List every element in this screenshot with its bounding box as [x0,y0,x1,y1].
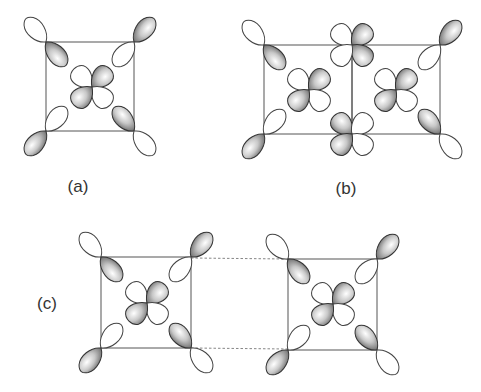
panel-label: (c) [37,294,57,313]
center-d-orbital [67,62,117,112]
panel-a: (a) [20,13,161,196]
dashed-bond [191,348,288,349]
center-d-orbital [308,279,358,329]
panel-label: (a) [68,177,89,196]
panel-b: (b) [238,16,467,198]
panel-c: (c) [37,228,403,379]
panel-label: (b) [336,179,357,198]
center-d-orbital [371,65,421,115]
center-d-orbital [122,278,172,328]
center-d-orbital [284,65,334,115]
orbital-diagram: (a) [0,0,481,392]
dashed-bond [191,258,288,259]
